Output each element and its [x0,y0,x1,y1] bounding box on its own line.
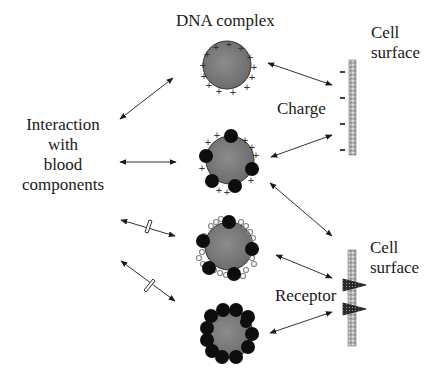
arrow-blood-blocked-4 [121,261,175,301]
arrow-receptor-4 [270,312,332,333]
arrow-charge-1 [268,63,332,85]
label-line: blood [14,155,112,175]
label-line: Cell [371,23,420,43]
cell-surface-membrane-bottom [343,250,366,346]
receptor-label: Receptor [275,286,336,305]
svg-text:+: + [242,134,248,146]
cell-surface-membrane-top [340,60,356,155]
arrow-receptor-3 [276,255,332,278]
svg-text:+: + [205,136,211,148]
label-line: Cell [370,238,419,258]
negative-charges-icon [340,72,345,150]
blood-interaction-arrows [120,78,176,301]
diagram-title: DNA complex [176,11,275,30]
complex-shielded-ligand [196,215,259,281]
interaction-with-blood-label: Interaction with blood components [14,115,112,195]
svg-text:+: + [253,149,259,161]
charge-label: Charge [277,99,326,118]
label-line: with [14,135,112,155]
svg-text:+: + [216,85,222,97]
svg-text:+: + [224,186,230,198]
svg-text:+: + [248,174,254,186]
svg-text:+: + [216,184,222,196]
svg-text:+: + [226,38,232,50]
label-line: components [14,175,112,195]
arrow-blood-1 [120,78,173,119]
cell-surface-label-top: Cell surface [371,23,420,63]
arrow-charge-2 [271,135,332,157]
label-line: surface [370,258,419,278]
svg-text:+: + [206,79,212,91]
svg-text:+: + [214,129,220,141]
blocked-icon [144,220,155,292]
svg-text:+: + [230,86,236,98]
label-line: Interaction [14,115,112,135]
cell-surface-label-bottom: Cell surface [370,238,419,278]
arrow-receptor-2 [270,183,332,236]
complex-ligand-coated [200,303,259,364]
svg-text:+: + [244,81,250,93]
dna-complex-diagram: +++ ++ ++ ++ ++ ++ ++ +++ ++ ++ [0,0,438,372]
complex-cationic-ligand: ++ +++ ++ ++ [199,129,259,198]
complex-cationic: +++ ++ ++ ++ ++ ++ [200,38,257,98]
svg-text:+: + [199,162,205,174]
svg-text:+: + [238,42,244,54]
label-line: surface [371,43,420,63]
svg-text:+: + [213,41,219,53]
